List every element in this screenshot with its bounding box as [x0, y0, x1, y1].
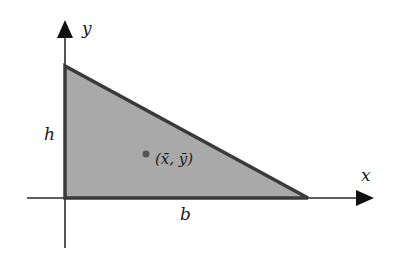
right-triangle: [65, 66, 308, 198]
height-label: h: [44, 124, 55, 144]
base-label: b: [180, 204, 191, 224]
x-axis-label: x: [361, 165, 371, 185]
centroid-point: [143, 151, 150, 158]
y-axis-arrowhead-icon: [57, 20, 73, 38]
x-axis-arrowhead-icon: [356, 190, 374, 206]
y-axis-label: y: [81, 18, 92, 38]
triangle-diagram: y x h b (x̄, ȳ): [0, 0, 395, 254]
centroid-label: (x̄, ȳ): [155, 150, 193, 168]
